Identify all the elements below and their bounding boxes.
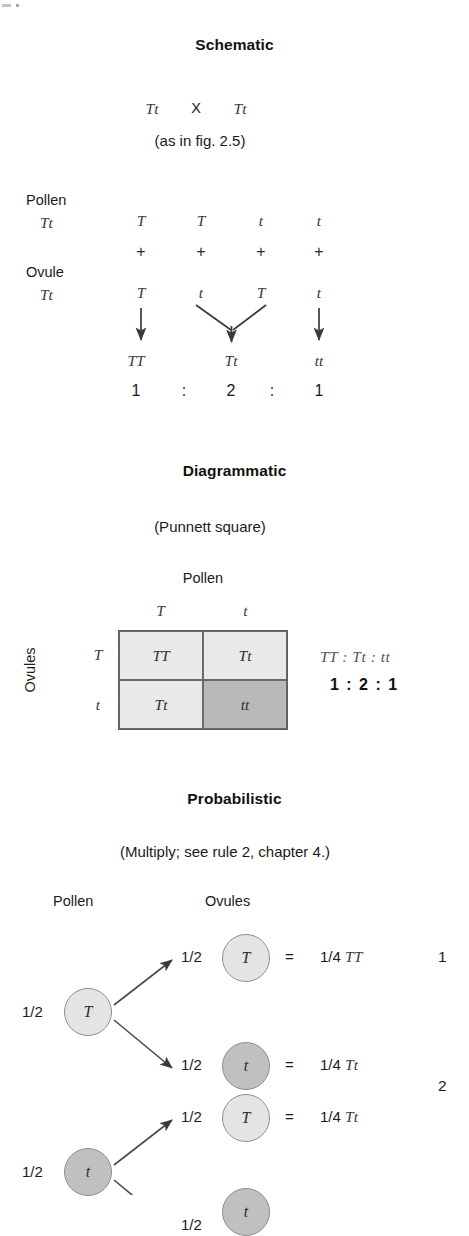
schematic-plus-1: + [178,243,224,261]
branch-node-0[interactable]: T [222,934,270,982]
schematic-ovule-label: Ovule [26,264,64,280]
branch-probability-2: 1/2 [181,1108,202,1125]
schematic-offspring-1: Tt [208,352,254,370]
schematic-pollen-genotype: Tt [40,214,53,232]
schematic-cross-left: Tt [130,100,174,118]
schematic-pollen-label: Pollen [26,192,66,208]
scan-artifact-dot [16,4,19,7]
diagrammatic-subtitle: (Punnett square) [0,518,420,535]
punnett-row-header-1: t [86,696,110,714]
punnett-column-header-0: T [118,602,203,620]
probabilistic-ovules-header: Ovules [205,893,250,909]
schematic-pollen-gamete-1: T [178,212,224,230]
schematic-ovule-gamete-1: t [178,284,224,302]
schematic-offspring-0: TT [113,352,159,370]
schematic-offspring-2: tt [296,352,342,370]
parent-probability-0: 1/2 [22,1003,43,1020]
branch-node-1[interactable]: t [222,1042,270,1090]
branch-probability-1: 1/2 [181,1056,202,1073]
schematic-title: Schematic [0,36,469,54]
parent-probability-1: 1/2 [22,1163,43,1180]
branch-result-2: 1/4 Tt [320,1108,358,1126]
schematic-ratio-0: 1 [113,382,159,400]
schematic-pollen-gamete-3: t [296,212,342,230]
punnett-cell-TT[interactable]: TT [119,631,203,680]
schematic-plus-3: + [296,243,342,261]
branch-result-prob-0: 1/4 [320,948,341,965]
branch-result-genotype-1: Tt [345,1056,358,1073]
punnett-top-axis-label: Pollen [118,570,288,586]
branch-probability-0: 1/2 [181,948,202,965]
schematic-pollen-gamete-2: t [238,212,284,230]
parent-node-T[interactable]: T [64,988,112,1036]
punnett-side-axis-label: Ovules [22,640,38,700]
branch-equals-1: = [285,1056,294,1073]
probabilistic-subtitle: (Multiply; see rule 2, chapter 4.) [0,843,450,860]
summary-number-0: 1 [438,948,447,966]
schematic-ratio-2: 1 [296,382,342,400]
tree-branch-arrow-1 [114,1020,172,1068]
punnett-ratio-genotypes: TT : Tt : tt [320,648,390,666]
punnett-square: TT Tt Tt tt [118,630,288,730]
scan-artifact-speck [2,4,11,7]
schematic-ratio-colon-0: : [174,382,194,400]
schematic-cross-symbol: X [182,100,210,116]
punnett-column-header-1: t [203,602,288,620]
branch-result-prob-2: 1/4 [320,1108,341,1125]
schematic-reference-note: (as in fig. 2.5) [0,132,400,149]
schematic-arrow-converging [196,305,266,342]
punnett-cell-tt[interactable]: tt [203,680,287,729]
branch-result-0: 1/4 TT [320,948,362,966]
schematic-ovule-gamete-3: t [296,284,342,302]
branch-node-3[interactable]: t [222,1188,270,1236]
tree-branch-arrow-2 [114,1120,172,1165]
probabilistic-title: Probabilistic [0,790,469,808]
diagrammatic-title: Diagrammatic [0,462,469,480]
punnett-row-header-0: T [86,646,110,664]
branch-equals-2: = [285,1108,294,1125]
schematic-plus-2: + [238,243,284,261]
branch-equals-0: = [285,948,294,965]
punnett-cell-Tt-bottom[interactable]: Tt [119,680,203,729]
branch-result-genotype-0: TT [345,948,362,965]
schematic-pollen-gamete-0: T [118,212,164,230]
parent-node-t[interactable]: t [64,1148,112,1196]
schematic-cross-right: Tt [218,100,262,118]
branch-result-prob-1: 1/4 [320,1056,341,1073]
branch-node-2[interactable]: T [222,1094,270,1142]
schematic-ratio-1: 2 [208,382,254,400]
tree-branch-arrow-3 [114,1180,172,1195]
summary-number-1: 2 [438,1077,447,1095]
probabilistic-pollen-header: Pollen [53,893,93,909]
branch-result-1: 1/4 Tt [320,1056,358,1074]
punnett-cell-Tt-top[interactable]: Tt [203,631,287,680]
branch-probability-3: 1/2 [181,1216,202,1233]
schematic-ovule-gamete-2: T [238,284,284,302]
schematic-ovule-gamete-0: T [118,284,164,302]
schematic-ratio-colon-1: : [262,382,282,400]
schematic-ovule-genotype: Tt [40,286,53,304]
tree-branch-arrow-0 [114,960,172,1005]
punnett-ratio-values: 1 : 2 : 1 [330,676,399,694]
branch-result-genotype-2: Tt [345,1108,358,1125]
schematic-plus-0: + [118,243,164,261]
